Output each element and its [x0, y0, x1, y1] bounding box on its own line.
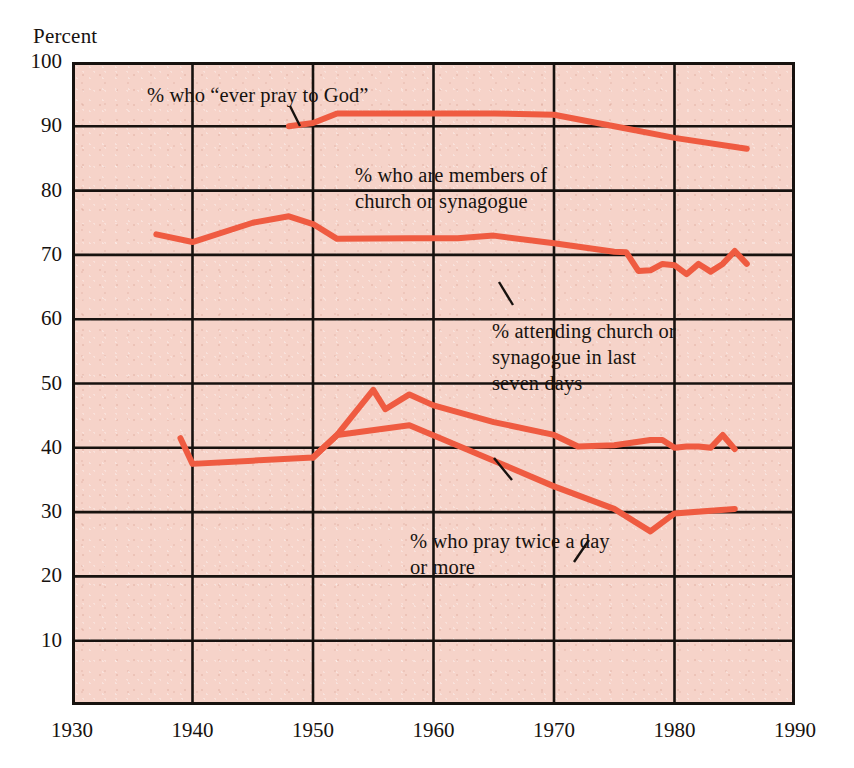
plot-svg-layer [72, 62, 795, 705]
x-tick-label: 1930 [27, 720, 117, 741]
y-tick-label: 10 [4, 630, 62, 651]
y-tick-label: 80 [4, 180, 62, 201]
grid-layer [72, 62, 795, 705]
x-tick-label: 1940 [148, 720, 238, 741]
x-tick-label: 1980 [630, 720, 720, 741]
x-tick-label: 1990 [750, 720, 840, 741]
y-tick-label: 70 [4, 244, 62, 265]
religion-trends-line-chart: Percent 100908070605040302010 1930194019… [0, 0, 854, 768]
series-line-1 [156, 216, 746, 274]
annotation-attending: % attending church or synagogue in last … [492, 318, 676, 397]
y-tick-label: 100 [4, 51, 62, 72]
annotation-pray-twice: % who pray twice a day or more [410, 528, 610, 580]
x-tick-label: 1960 [389, 720, 479, 741]
annotation-ever-pray: % who “ever pray to God” [147, 82, 369, 108]
series-line-0 [289, 113, 747, 148]
y-tick-label: 60 [4, 308, 62, 329]
y-tick-label: 40 [4, 437, 62, 458]
x-tick-label: 1950 [268, 720, 358, 741]
annotation-members: % who are members of church or synagogue [355, 162, 547, 214]
y-axis-caption: Percent [33, 24, 97, 49]
leader-line-1 [499, 282, 513, 305]
y-tick-label: 50 [4, 373, 62, 394]
y-tick-label: 90 [4, 115, 62, 136]
y-tick-label: 30 [4, 501, 62, 522]
y-tick-label: 20 [4, 565, 62, 586]
x-tick-label: 1970 [509, 720, 599, 741]
